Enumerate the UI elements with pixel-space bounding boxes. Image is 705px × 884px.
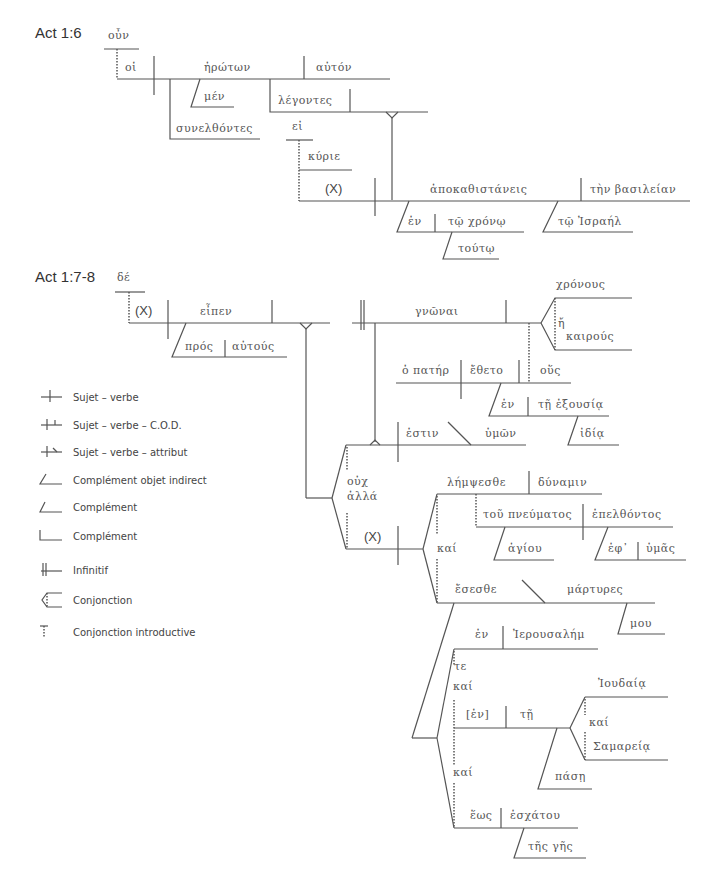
word-en2: ἐν [475,628,489,641]
word-te-exousia: τῇ ἐξουσίᾳ [538,398,604,411]
word-estin: ἐστιν [406,427,439,440]
word-to-chrono: τῷ χρόνῳ [448,215,506,228]
word-mou: μου [630,617,652,630]
word-ouch: οὐχ [347,475,368,488]
section-label: Act 1:6 [35,24,82,41]
word-ioudaia: Ἰουδαίᾳ [598,677,646,690]
implied-subject-x-2: (X) [364,529,381,544]
word-hoi: οἱ [125,61,137,74]
word-lempsesthe: λήμψεσθε [447,476,506,489]
legend-label: Sujet – verbe [73,392,139,403]
word-en1: ἐν [501,398,515,411]
word-synelthontes: συνελθόντες [176,122,253,135]
word-kai3: καί [589,716,609,729]
legend-subject-verb-attribute-icon [41,446,62,457]
word-to-israel: τῷ Ἰσραήλ [558,215,622,228]
word-epelthontos: ἐπελθόντος [592,508,662,521]
legend-label: Sujet – verbe – C.O.D. [73,420,182,431]
word-ho-pater: ὁ πατήρ [402,364,449,377]
word-hymas: ὑμᾶς [646,542,675,555]
word-tes-ges: τῆς γῆς [528,840,573,853]
word-tou-pneumatos: τοῦ πνεύματος [483,508,572,521]
word-oun: οὖν [108,28,130,42]
word-hews: ἕως [470,809,493,822]
word-erotwn: ἠρώτων [204,61,251,74]
section-acts-1-7-8: Act 1:7-8 δέ (X) εἶπεν πρός αὐτούς γνῶνα… [35,268,686,858]
word-hagiou: ἁγίου [508,542,542,555]
implied-subject-x: (X) [325,181,342,196]
word-idia: ἰδίᾳ [580,427,605,440]
legend-label: Complément [73,531,137,542]
legend: Sujet – verbe Sujet – verbe – C.O.D. Suj… [40,390,207,638]
word-dynamin: δύναμιν [538,476,587,489]
legend-label: Conjonction [73,595,132,606]
legend-label: Sujet – verbe – attribut [73,447,187,458]
word-de: δέ [117,271,130,284]
word-ierousalem: Ἰερουσαλήμ [513,628,585,641]
legend-introductory-conjunction-icon [40,626,48,638]
section-acts-1-6: Act 1:6 οὖν οἱ ἠρώτων αὐτόν μέν συνελθόν… [35,24,690,259]
legend-indirect-object-icon [40,474,62,484]
word-etheto: ἔθετο [470,364,503,377]
legend-infinitive-icon [41,563,62,576]
sentence-diagram: Act 1:6 οὖν οἱ ἠρώτων αὐτόν μέν συνελθόν… [0,0,705,884]
word-hymwn: ὑμῶν [485,427,517,440]
implied-subject-x-1: (X) [135,303,152,318]
word-pase: πάσῃ [555,770,586,783]
word-kyrie: κύριε [308,150,341,163]
word-martyres: μάρτυρες [567,583,623,596]
legend-label: Complément [73,502,137,513]
word-ten-basileian: τὴν βασιλείαν [590,183,676,196]
legend-label: Conjonction introductive [73,627,196,638]
word-samareia: Σαμαρείᾳ [593,740,651,753]
word-eschatou: ἐσχάτου [510,809,560,822]
word-hous: οὕς [540,364,561,377]
legend-label: Infinitif [73,565,108,576]
word-legontes: λέγοντες [278,94,333,107]
word-chronous: χρόνους [556,278,605,291]
section-label-2: Act 1:7-8 [35,268,95,285]
word-te: τε [454,660,467,673]
word-kai2: καί [453,680,473,693]
word-auton: αὐτόν [316,61,352,74]
word-en: ἐν [408,215,422,228]
legend-label: Complément objet indirect [73,475,207,486]
legend-complement-step-icon [40,530,62,540]
word-ei: εἰ [292,120,303,133]
legend-subject-verb-icon [41,390,62,402]
legend-conjunction-icon [42,593,62,607]
word-kai4: καί [453,766,473,779]
word-autous: αὐτούς [232,340,275,353]
legend-complement-slant-icon [40,502,62,512]
word-gnwnai: γνῶναι [415,305,459,318]
word-eph: ἐφ᾽ [608,542,629,555]
legend-subject-verb-object-icon [41,419,62,430]
word-apokathistaneis: ἀποκαθιστάνεις [430,183,527,196]
word-esesthe: ἔσεσθε [455,583,497,596]
word-toutw: τούτῳ [458,242,495,255]
word-men: μέν [204,90,225,103]
word-alla: ἀλλά [347,490,378,503]
word-eipen: εἶπεν [200,303,232,318]
word-te2: τῇ [520,708,534,721]
word-kai1: καί [437,542,457,555]
word-kairous: καιρούς [566,330,614,343]
word-en3: [ἐν] [466,708,489,721]
word-e: ἤ [558,317,565,330]
word-pros: πρός [185,340,213,353]
